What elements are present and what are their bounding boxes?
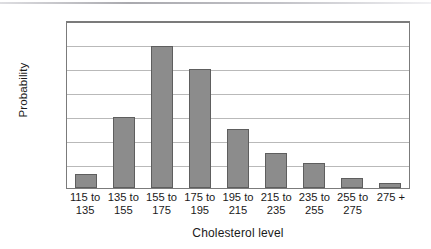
- bar-275-plus[interactable]: [379, 183, 400, 188]
- bar-slot: [181, 22, 219, 188]
- bar-135-to-155[interactable]: [113, 117, 134, 188]
- x-tick-label-115-to-135: 115 to 135: [66, 191, 104, 216]
- bar-slot: [219, 22, 257, 188]
- x-tick-label-135-to-155: 135 to 155: [104, 191, 142, 216]
- y-axis-title: Probability: [17, 25, 29, 155]
- x-axis-tick-labels: 115 to 135 135 to 155 155 to 175 175 to …: [66, 191, 410, 216]
- bar-215-to-235[interactable]: [265, 153, 286, 188]
- bar-slot: [67, 22, 105, 188]
- bar-195-to-215[interactable]: [227, 129, 248, 188]
- bar-slot: [143, 22, 181, 188]
- probability-histogram: Probability 0.35 0.3 0.25 0.2 0.15 0.1 0…: [0, 0, 431, 249]
- x-tick-label-175-to-195: 175 to 195: [181, 191, 219, 216]
- x-axis-title: Cholesterol level: [66, 226, 410, 240]
- bar-slot: [257, 22, 295, 188]
- bar-slot: [295, 22, 333, 188]
- bar-slot: [105, 22, 143, 188]
- bar-155-to-175[interactable]: [151, 46, 172, 188]
- bar-255-to-275[interactable]: [341, 178, 362, 188]
- bar-slot: [371, 22, 409, 188]
- x-tick-label-155-to-175: 155 to 175: [142, 191, 180, 216]
- bar-series: [67, 22, 409, 188]
- x-tick-label-235-to-255: 235 to 255: [295, 191, 333, 216]
- x-tick-label-195-to-215: 195 to 215: [219, 191, 257, 216]
- x-tick-label-255-to-275: 255 to 275: [334, 191, 372, 216]
- gridline-0: 0: [67, 188, 409, 189]
- x-tick-label-215-to-235: 215 to 235: [257, 191, 295, 216]
- x-tick-label-275-plus: 275 +: [372, 191, 410, 216]
- plot-area: 0.35 0.3 0.25 0.2 0.15 0.1 0.05 0: [66, 21, 410, 189]
- bar-115-to-135[interactable]: [75, 174, 96, 188]
- bar-235-to-255[interactable]: [303, 163, 324, 188]
- bar-175-to-195[interactable]: [189, 69, 210, 188]
- bar-slot: [333, 22, 371, 188]
